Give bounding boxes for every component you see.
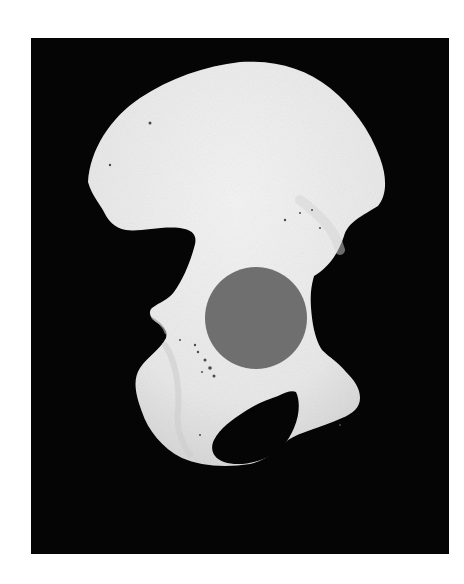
acetabulum-marker [205, 267, 307, 369]
bone-illustration [0, 0, 464, 584]
bone-photograph [0, 0, 464, 584]
